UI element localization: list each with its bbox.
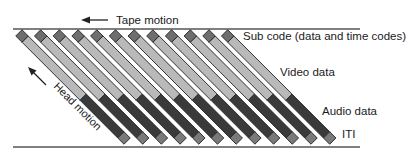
label-subcode: Sub code (data and time codes) [243,30,406,42]
helical-scan-track-diagram: Tape motion Head motion Sub code (data a… [0,0,409,157]
label-iti: ITI [342,128,355,140]
tape-motion-label: Tape motion [116,14,179,26]
label-audio-data: Audio data [322,105,378,117]
label-video-data: Video data [280,66,335,78]
tape-motion-indicator: Tape motion [81,14,179,26]
tape-motion-arrowhead-icon [81,17,90,24]
